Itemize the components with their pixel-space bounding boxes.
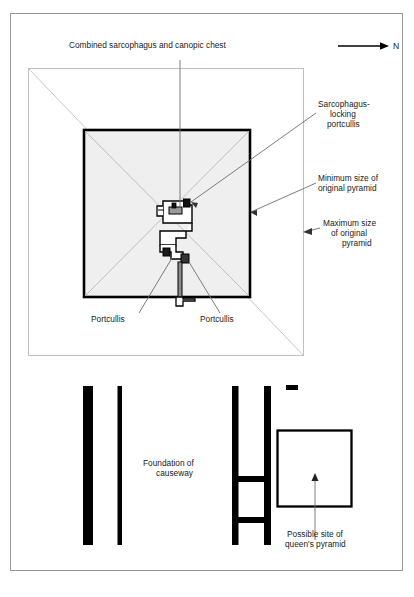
causeway-crossbar-upper — [232, 476, 271, 482]
causeway-wall-thick-west — [83, 386, 93, 545]
label-queens-pyramid-line2: queen's pyramid — [285, 539, 346, 549]
pyramid-site-plan-figure: N Combined sarcophagus and canopic chest… — [0, 0, 414, 597]
label-portcullis-left: Portcullis — [91, 314, 125, 324]
label-combined-sarcophagus: Combined sarcophagus and canopic chest — [69, 40, 227, 50]
label-foundation-line1: Foundation of — [143, 458, 194, 468]
chamber-portcullis-block — [172, 203, 176, 208]
label-maximum-size-line2: of original — [331, 228, 367, 238]
causeway-crossbar-lower — [232, 517, 271, 523]
portcullis-left-block — [163, 248, 170, 256]
label-minimum-size-line1: Minimum size of — [318, 173, 379, 183]
west-recess — [157, 206, 163, 216]
causeway-wall-thin-west — [118, 386, 123, 545]
label-sarcophagus-locking-portcullis-line2: locking — [330, 109, 356, 119]
label-maximum-size-line3: pyramid — [342, 238, 372, 248]
label-foundation-line2: causeway — [156, 468, 194, 478]
label-minimum-size-line2: original pyramid — [318, 183, 377, 193]
label-sarcophagus-locking-portcullis-line3: portcullis — [327, 119, 360, 129]
wall-fragment-marker — [286, 385, 298, 390]
label-maximum-size-line1: Maximum size — [323, 218, 376, 228]
sarcophagus-locking-portcullis-block — [184, 199, 191, 207]
descending-shaft — [178, 262, 182, 298]
queens-pyramid-outline — [278, 431, 352, 507]
label-portcullis-right: Portcullis — [200, 314, 234, 324]
label-queens-pyramid-line1: Possible site of — [287, 529, 343, 539]
compass-label: N — [393, 41, 399, 51]
label-sarcophagus-locking-portcullis-line1: Sarcophagus- — [318, 99, 370, 109]
